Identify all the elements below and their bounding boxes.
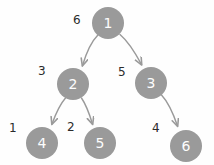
node-6-label: 6	[182, 138, 191, 154]
node-4-label: 4	[38, 135, 47, 151]
tree-diagram-canvas: 1 2 3 4 5 6 6 5 3 2 1 4	[0, 0, 214, 165]
edge-3-to-6	[162, 95, 178, 126]
node-5-label: 5	[96, 135, 105, 151]
node-1[interactable]: 1	[92, 7, 124, 39]
node-5[interactable]: 5	[84, 127, 116, 159]
edge-1-to-3	[120, 35, 142, 65]
edge-weight-2-to-4: 1	[9, 122, 17, 134]
node-4[interactable]: 4	[26, 127, 58, 159]
edge-2-to-4	[52, 98, 66, 124]
node-6[interactable]: 6	[170, 130, 202, 162]
node-2-label: 2	[69, 76, 78, 92]
edge-weight-2-to-5: 2	[67, 121, 75, 133]
node-2[interactable]: 2	[57, 68, 89, 100]
node-3-label: 3	[147, 75, 156, 91]
edge-weight-2-branch: 3	[38, 65, 46, 77]
node-1-label: 1	[104, 15, 113, 31]
edge-weight-1-to-3: 5	[118, 66, 126, 78]
edge-weight-1-to-2: 6	[73, 14, 81, 26]
edge-2-to-5	[82, 98, 93, 124]
node-3[interactable]: 3	[135, 67, 167, 99]
edge-1-to-2	[83, 36, 98, 66]
edge-weight-3-to-6: 4	[152, 122, 160, 134]
